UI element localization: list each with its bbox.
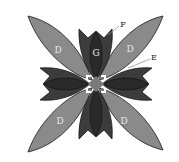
label-g: G bbox=[92, 48, 99, 58]
label-f: F bbox=[120, 20, 126, 29]
flower-quilt-diagram: D D D D G F E bbox=[0, 0, 179, 162]
label-d-top-left: D bbox=[54, 45, 61, 55]
leader-line-f bbox=[108, 26, 119, 35]
label-d-bottom-right: D bbox=[120, 116, 127, 126]
label-d-bottom-left: D bbox=[56, 116, 63, 126]
label-d-top-right: D bbox=[126, 44, 133, 54]
label-e: E bbox=[151, 53, 157, 62]
